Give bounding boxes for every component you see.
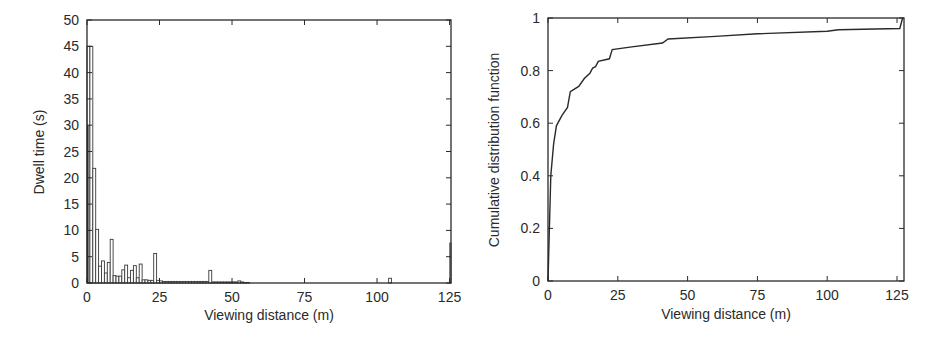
left-y-axis-label: Dwell time (s) xyxy=(31,110,47,195)
left-y-tick-label: 45 xyxy=(63,38,79,54)
left-y-tick-label: 35 xyxy=(63,91,79,107)
right-y-axis-ticks: 00.20.40.60.81 xyxy=(521,10,904,289)
histogram-bar xyxy=(209,270,212,283)
left-x-axis-label: Viewing distance (m) xyxy=(204,307,334,323)
right-x-tick-label: 75 xyxy=(750,287,766,303)
left-x-tick-label: 25 xyxy=(152,289,168,305)
right-x-axis-label: Viewing distance (m) xyxy=(661,306,791,322)
right-x-tick-label: 100 xyxy=(816,287,840,303)
histogram-bar xyxy=(389,278,392,283)
right-x-tick-label: 25 xyxy=(610,287,626,303)
right-x-tick-label: 0 xyxy=(544,287,552,303)
right-y-tick-label: 0.4 xyxy=(521,168,541,184)
left-x-axis-ticks: 0255075100125 xyxy=(83,20,461,305)
left-y-tick-label: 0 xyxy=(71,275,79,291)
left-x-tick-label: 100 xyxy=(365,289,389,305)
left-y-tick-label: 40 xyxy=(63,65,79,81)
dwell-time-histogram: 05101520253035404550 0255075100125 Viewi… xyxy=(31,12,461,323)
right-y-tick-label: 1 xyxy=(532,10,540,26)
histogram-bar xyxy=(154,254,157,283)
left-x-tick-label: 50 xyxy=(224,289,240,305)
cdf-line xyxy=(548,18,903,281)
left-x-tick-label: 75 xyxy=(297,289,313,305)
left-y-tick-label: 20 xyxy=(63,170,79,186)
left-x-tick-label: 125 xyxy=(438,289,462,305)
left-plot-frame xyxy=(87,20,451,283)
left-y-tick-label: 5 xyxy=(71,249,79,265)
right-y-tick-label: 0.8 xyxy=(521,63,541,79)
right-x-tick-label: 50 xyxy=(680,287,696,303)
right-x-tick-label: 125 xyxy=(885,287,909,303)
figure: 05101520253035404550 0255075100125 Viewi… xyxy=(0,0,933,343)
right-y-axis-label: Cumulative distribution function xyxy=(486,53,502,248)
left-x-tick-label: 0 xyxy=(83,289,91,305)
cdf-chart: 00.20.40.60.81 0255075100125 Viewing dis… xyxy=(486,10,909,322)
histogram-bars xyxy=(87,46,451,283)
left-y-tick-label: 10 xyxy=(63,222,79,238)
right-plot-frame xyxy=(548,18,904,281)
right-y-tick-label: 0.2 xyxy=(521,220,541,236)
left-y-axis-ticks: 05101520253035404550 xyxy=(63,12,451,291)
right-y-tick-label: 0 xyxy=(532,273,540,289)
left-y-tick-label: 25 xyxy=(63,144,79,160)
left-y-tick-label: 50 xyxy=(63,12,79,28)
right-y-tick-label: 0.6 xyxy=(521,115,541,131)
left-y-tick-label: 30 xyxy=(63,117,79,133)
left-y-tick-label: 15 xyxy=(63,196,79,212)
